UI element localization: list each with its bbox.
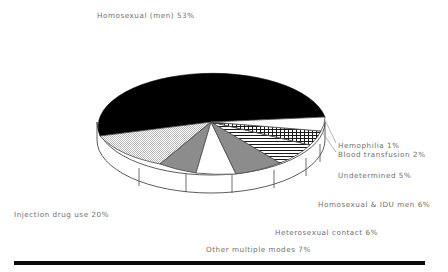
pie-chart-graphic: [0, 0, 448, 272]
leader-line-hemophilia: [325, 120, 336, 143]
slice-label-undetermined: Undetermined 5%: [338, 171, 411, 181]
slice-label-other-multiple-modes: Other multiple modes 7%: [206, 245, 311, 255]
slice-label-injection-drug-use: Injection drug use 20%: [14, 210, 109, 220]
pie-slices: [98, 73, 325, 174]
slice-label-blood-transfusion: Blood transfusion 2%: [338, 150, 426, 160]
bottom-divider-rule: [14, 261, 425, 265]
slice-label-homosexual-idu-men: Homosexual & IDU men 6%: [318, 200, 430, 210]
pie-chart-figure: Homosexual (men) 53% Hemophilia 1% Blood…: [0, 0, 448, 272]
page-title: Homosexual (men) 53%: [97, 11, 195, 21]
slice-label-heterosexual-contact: Heterosexual contact 6%: [275, 228, 378, 238]
